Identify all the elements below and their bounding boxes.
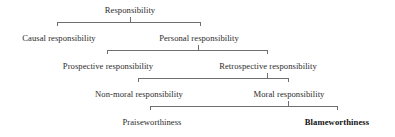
- connector-drop-non-moral-responsibility: [138, 78, 139, 82]
- connector-bar-level1: [57, 22, 201, 23]
- connector-bar-level2: [107, 50, 268, 51]
- node-praiseworthiness: Praiseworthiness: [122, 117, 181, 127]
- node-prospective-responsibility: Prospective responsibility: [63, 61, 153, 71]
- node-retrospective-responsibility: Retrospective responsibility: [219, 61, 317, 71]
- connector-drop-retrospective-responsibility: [267, 50, 268, 54]
- connector-bar-level4: [150, 106, 338, 107]
- node-moral-responsibility: Moral responsibility: [254, 89, 325, 99]
- node-personal-responsibility: Personal responsibility: [159, 33, 239, 43]
- connector-drop-blameworthiness: [337, 106, 338, 110]
- connector-bar-level3: [138, 78, 289, 79]
- connector-drop-praiseworthiness: [150, 106, 151, 110]
- connector-drop-personal-responsibility: [200, 22, 201, 26]
- connector-drop-prospective-responsibility: [107, 50, 108, 54]
- connector-drop-moral-responsibility: [288, 78, 289, 82]
- responsibility-tree-diagram: Responsibility Causal responsibility Per…: [0, 0, 395, 137]
- node-blameworthiness: Blameworthiness: [305, 117, 370, 127]
- node-causal-responsibility: Causal responsibility: [22, 33, 95, 43]
- node-non-moral-responsibility: Non-moral responsibility: [95, 89, 183, 99]
- connector-drop-causal-responsibility: [57, 22, 58, 26]
- node-responsibility: Responsibility: [105, 5, 155, 15]
